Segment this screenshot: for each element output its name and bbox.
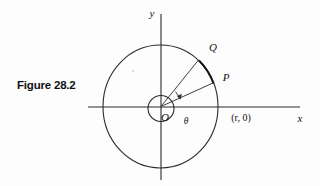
x-intercept-label: (r, 0) — [231, 112, 251, 124]
y-axis-label: y — [149, 7, 155, 19]
point-p-label: P — [222, 71, 230, 83]
print-speck — [132, 70, 133, 71]
angle-theta-label: θ — [184, 116, 189, 126]
segment-oq — [161, 60, 199, 107]
segment-op — [161, 83, 213, 107]
origin-label: O — [161, 111, 169, 123]
x-axis-label: x — [297, 112, 303, 124]
figure-container: Figure 28.2 y x O θ P Q — [0, 0, 320, 186]
point-q-label: Q — [209, 41, 217, 53]
polar-coordinate-diagram: y x O θ P Q (r, 0) — [0, 0, 320, 186]
arc-pq — [199, 61, 214, 84]
